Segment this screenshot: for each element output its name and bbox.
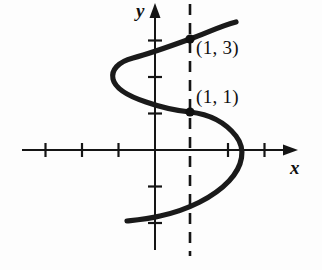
point-label-upper: (1, 3)	[196, 38, 239, 57]
y-axis-arrowhead	[150, 3, 161, 18]
graph-figure: y x (1, 3) (1, 1)	[0, 0, 322, 270]
point-marker-upper	[185, 34, 194, 43]
x-axis-group	[22, 143, 298, 157]
point-label-lower: (1, 1)	[196, 87, 239, 106]
y-axis-label: y	[136, 1, 144, 20]
point-marker-lower	[185, 107, 194, 116]
x-axis-label: x	[290, 158, 300, 177]
plot-canvas	[0, 0, 322, 270]
x-axis-arrowhead	[283, 145, 298, 156]
y-axis-group	[148, 3, 162, 250]
